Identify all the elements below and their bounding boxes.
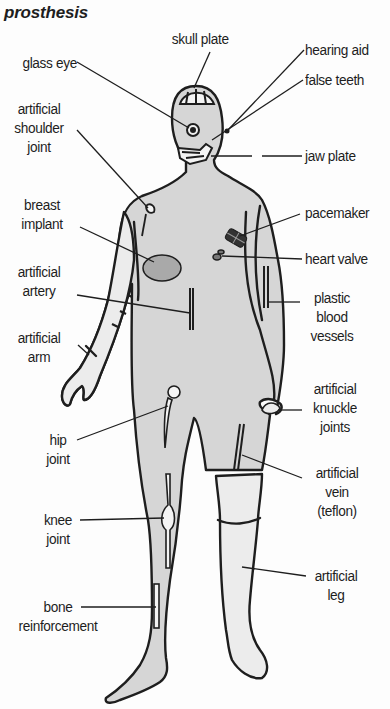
label-heart-valve: heart valve	[305, 249, 368, 268]
label-false-teeth: false teeth	[305, 70, 364, 89]
bone-reinforcement-icon	[154, 584, 159, 628]
label-glass-eye: glass eye	[23, 53, 77, 72]
label-artificial-vein: artificial vein (teflon)	[304, 463, 369, 520]
label-jaw-plate: jaw plate	[305, 146, 356, 165]
knuckle-joints-icon	[262, 403, 280, 414]
label-knee-joint: knee joint	[39, 510, 78, 548]
label-artificial-arm: artificial arm	[6, 328, 71, 366]
label-artificial-artery: artificial artery	[6, 262, 71, 300]
label-artificial-leg: artificial leg	[308, 566, 364, 604]
artificial-arm-shape	[62, 212, 134, 406]
label-hip-joint: hip joint	[40, 430, 75, 468]
label-hearing-aid: hearing aid	[305, 40, 369, 59]
label-artificial-shoulder-joint: artificial shoulder joint	[6, 99, 71, 156]
label-plastic-blood-vessels: plastic blood vessels	[306, 288, 357, 345]
label-breast-implant: breast implant	[12, 195, 72, 233]
artificial-leg-shape	[216, 474, 267, 678]
label-bone-reinforcement: bone reinforcement	[10, 597, 105, 635]
label-pacemaker: pacemaker	[305, 203, 369, 222]
label-skull-plate: skull plate	[172, 29, 229, 48]
label-artificial-knuckle-joints: artificial knuckle joints	[302, 379, 367, 436]
